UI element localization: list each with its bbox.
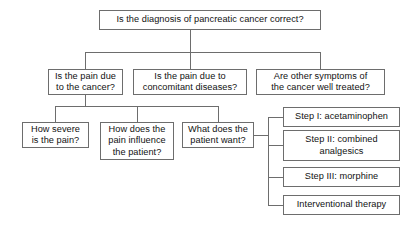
connector-patient-want-stem [254,135,268,136]
connector-drop-other-symptoms [320,52,321,69]
connector-drop-how-influence [137,106,138,122]
node-pain-due-to-concomitant-diseases[interactable]: Is the pain due to concomitant diseases? [133,69,247,95]
node-interventional-therapy[interactable]: Interventional therapy [283,195,400,215]
node-other-symptoms-well-treated[interactable]: Are other symptoms of the cancer well tr… [256,69,385,95]
connector-pain-cancer-stem [85,95,86,106]
connector-stub-step-1 [268,117,283,118]
connector-drop-pain-concomitant [190,52,191,69]
node-how-pain-influences-patient[interactable]: How does the pain influence the patient? [100,122,174,160]
node-root-diagnosis[interactable]: Is the diagnosis of pancreatic cancer co… [99,10,321,30]
node-step-2-combined-analgesics[interactable]: Step II: combined analgesics [283,130,400,161]
node-what-does-patient-want[interactable]: What does the patient want? [182,122,254,148]
connector-root-stem [190,30,191,52]
connector-drop-how-severe [55,106,56,122]
connector-treatment-spine [268,117,269,205]
connector-stub-interventional [268,205,283,206]
connector-drop-patient-want [218,106,219,122]
connector-level2-bus [85,52,321,53]
node-step-1-acetaminophen[interactable]: Step I: acetaminophen [283,107,400,127]
connector-drop-pain-cancer [85,52,86,69]
connector-stub-step-2 [268,145,283,146]
node-how-severe-is-pain[interactable]: How severe is the pain? [22,122,89,148]
node-pain-due-to-cancer[interactable]: Is the pain due to the cancer? [48,69,123,95]
node-step-3-morphine[interactable]: Step III: morphine [283,167,400,187]
flowchart-canvas: Is the diagnosis of pancreatic cancer co… [0,0,415,226]
connector-stub-step-3 [268,177,283,178]
